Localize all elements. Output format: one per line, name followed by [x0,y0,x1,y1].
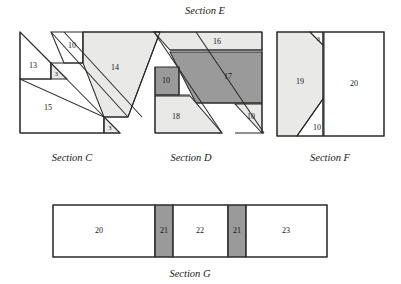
piece-10-d-right-label: 10 [247,112,255,121]
piece-16-label: 16 [213,37,221,46]
section-f-label: Section F [310,152,351,163]
piece-14 [83,32,160,117]
section-e-label: Section E [185,5,226,16]
piece-23-g-label: 23 [282,226,290,235]
section-g-label: Section G [169,268,211,279]
pieces-layer [20,32,384,257]
piece-22-g-label: 22 [196,226,204,235]
piece-21-g-left-label: 21 [160,226,168,235]
diagram-canvas: 1331531014161710181019310202021222123 Se… [0,0,401,284]
section-d-label: Section D [170,152,212,163]
piece-15 [20,79,104,133]
piece-15-label: 15 [44,103,52,112]
piece-21-g-right-label: 21 [233,226,241,235]
section-c-label: Section C [52,152,94,163]
piece-13-label: 13 [29,61,37,70]
piece-10-f-label: 10 [313,123,321,132]
piece-10-d-mid-label: 10 [162,76,170,85]
piece-17-label: 17 [224,72,232,81]
piece-13 [20,32,51,79]
piece-10-e-left-label: 10 [68,41,76,50]
piece-20-g-label: 20 [95,226,103,235]
piece-14-label: 14 [111,63,119,72]
piece-18-label: 18 [172,112,180,121]
piece-16 [154,32,262,50]
piece-19-label: 19 [296,77,304,86]
piece-20-f-label: 20 [350,79,358,88]
geometry-diagram: 1331531014161710181019310202021222123 Se… [0,0,401,284]
piece-20-g [53,205,155,257]
